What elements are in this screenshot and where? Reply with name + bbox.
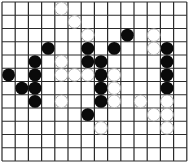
white-stone[interactable] xyxy=(81,29,94,42)
white-stone[interactable] xyxy=(68,15,81,28)
black-stone[interactable] xyxy=(161,55,174,68)
black-stone[interactable] xyxy=(108,42,121,55)
white-stone[interactable] xyxy=(161,95,174,108)
white-stone[interactable] xyxy=(55,68,68,81)
white-stone[interactable] xyxy=(108,82,121,95)
black-stone[interactable] xyxy=(161,68,174,81)
black-stone[interactable] xyxy=(95,68,108,81)
white-stone[interactable] xyxy=(55,2,68,15)
black-stone[interactable] xyxy=(161,42,174,55)
black-stone[interactable] xyxy=(95,82,108,95)
black-stone[interactable] xyxy=(121,29,134,42)
black-stone[interactable] xyxy=(29,82,42,95)
black-stone[interactable] xyxy=(95,95,108,108)
black-stone[interactable] xyxy=(29,55,42,68)
white-stone[interactable] xyxy=(55,55,68,68)
black-stone[interactable] xyxy=(2,68,15,81)
black-stone[interactable] xyxy=(29,68,42,81)
white-stone[interactable] xyxy=(161,108,174,121)
white-stone[interactable] xyxy=(108,68,121,81)
black-stone[interactable] xyxy=(15,82,28,95)
white-stone[interactable] xyxy=(81,68,94,81)
white-stone[interactable] xyxy=(95,121,108,134)
black-stone[interactable] xyxy=(81,42,94,55)
white-stone[interactable] xyxy=(108,95,121,108)
white-stone[interactable] xyxy=(147,42,160,55)
game-board[interactable] xyxy=(0,0,190,163)
white-stone[interactable] xyxy=(68,68,81,81)
white-stone[interactable] xyxy=(55,95,68,108)
black-stone[interactable] xyxy=(161,82,174,95)
board-grid xyxy=(2,2,187,161)
white-stone[interactable] xyxy=(161,121,174,134)
black-stone[interactable] xyxy=(81,108,94,121)
black-stone[interactable] xyxy=(42,42,55,55)
white-stone[interactable] xyxy=(147,29,160,42)
black-stone[interactable] xyxy=(81,55,94,68)
white-stone[interactable] xyxy=(147,108,160,121)
black-stone[interactable] xyxy=(95,55,108,68)
black-stone[interactable] xyxy=(29,95,42,108)
white-stone[interactable] xyxy=(134,95,147,108)
